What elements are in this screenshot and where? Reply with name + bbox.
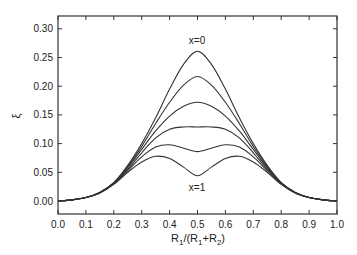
x-tick-label: 0.1 [79,219,93,230]
data-curves [58,51,337,201]
annotation-x1: x=1 [189,182,206,193]
y-tick-label: 0.05 [34,167,54,178]
x-tick-label: 0.5 [191,219,205,230]
x-tick-label: 0.6 [218,219,232,230]
y-tick-label: 0.30 [34,23,54,34]
x-tick-label: 0.4 [163,219,177,230]
x-axis-ticks: 0.00.10.20.30.40.50.60.70.80.91.0 [51,16,344,230]
x-tick-label: 0.8 [274,219,288,230]
curve-x-1 [58,156,337,201]
y-axis-label: ξ [10,113,22,118]
x-tick-label: 0.3 [135,219,149,230]
annotation-x0: x=0 [189,35,206,46]
line-chart: 0.000.050.100.150.200.250.30 0.00.10.20.… [0,0,357,255]
y-tick-label: 0.10 [34,138,54,149]
y-tick-label: 0.15 [34,109,54,120]
x-tick-label: 0.7 [246,219,260,230]
x-tick-label: 1.0 [330,219,344,230]
y-axis-ticks: 0.000.050.100.150.200.250.30 [34,23,337,206]
x-axis-label: R1/(R1+R2) [171,232,225,247]
x-tick-label: 0.0 [51,219,65,230]
x-tick-label: 0.9 [302,219,316,230]
y-tick-label: 0.25 [34,52,54,63]
y-tick-label: 0.00 [34,196,54,207]
x-tick-label: 0.2 [107,219,121,230]
y-tick-label: 0.20 [34,81,54,92]
curve-x-0 [58,51,337,201]
